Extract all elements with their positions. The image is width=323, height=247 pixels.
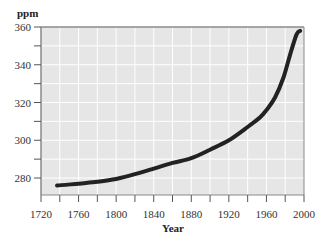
x-tick-label: 1960 [255,208,278,220]
y-tick-label: 340 [15,59,32,71]
y-tick-label: 360 [15,21,32,33]
x-tick-label: 1760 [68,208,91,220]
x-tick-label: 1840 [143,208,166,220]
y-axis-title: ppm [17,7,38,19]
y-axis-ticks: 280300320340360 [15,21,42,184]
co2-line-chart: 17201760180018401880192019602000 2803003… [0,0,323,247]
y-tick-label: 300 [15,134,32,146]
x-tick-label: 1880 [180,208,203,220]
x-axis-ticks: 17201760180018401880192019602000 [30,195,316,220]
x-axis-title: Year [162,222,184,234]
chart-canvas: 17201760180018401880192019602000 2803003… [0,0,323,247]
y-tick-label: 320 [15,97,32,109]
y-tick-label: 280 [15,172,32,184]
x-tick-label: 1800 [105,208,128,220]
x-tick-label: 2000 [293,208,316,220]
x-tick-label: 1920 [218,208,241,220]
x-tick-label: 1720 [30,208,53,220]
